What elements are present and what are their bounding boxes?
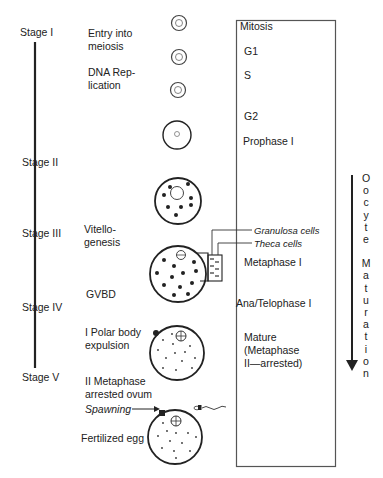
event-metaphase-ovum: II Metaphasearrested ovum (85, 375, 152, 401)
oocyte-g1 (172, 50, 187, 65)
event-polar-body: I Polar bodyexpulsion (85, 326, 141, 352)
stage-label-3: Stage III (22, 227, 61, 240)
stage-label-2: Stage II (22, 156, 58, 169)
phase-g1: G1 (244, 45, 258, 58)
phase-mature-2: (Metaphase (244, 344, 299, 357)
phase-g2: G2 (244, 110, 258, 123)
oocyte-previtellogenic (155, 178, 201, 224)
granulosa-label: Granulosa cells (254, 224, 319, 237)
oocyte-entry-meiosis (172, 16, 187, 31)
stage-label-5: Stage V (22, 371, 59, 384)
oocyte-polar-body (150, 326, 204, 380)
phase-anatelophase-1: Ana/Telophase I (236, 297, 311, 310)
theca-label: Theca cells (254, 237, 302, 250)
maturation-label: O o c y t e M a t u r a t i o n (360, 172, 372, 379)
event-dna-replication: DNA Rep-lication (88, 66, 135, 92)
event-entry-meiosis: Entry intomeiosis (88, 27, 132, 53)
sperm-icon (194, 405, 226, 410)
stage-label-1: Stage I (20, 26, 53, 39)
event-gvbd: GVBD (86, 288, 116, 301)
phase-mature-3: II—arrested) (244, 357, 302, 370)
phase-metaphase-1: Metaphase I (244, 256, 302, 269)
oocyte-vitellogenic (150, 246, 222, 302)
stage-label-4: Stage IV (22, 301, 62, 314)
phase-s: S (244, 69, 251, 82)
event-fertilized-egg: Fertilized egg (81, 432, 144, 445)
oocyte-prophase (163, 121, 191, 149)
event-vitellogenesis: Vitello-genesis (84, 223, 120, 249)
phase-prophase-1: Prophase I (243, 135, 294, 148)
fertilized-egg (148, 410, 202, 464)
phase-title: Mitosis (240, 20, 273, 33)
oocyte-dna-replication (171, 83, 186, 98)
phase-mature: Mature (244, 331, 277, 344)
spawning-label: Spawning (85, 403, 131, 416)
theca-leader-line (218, 243, 252, 255)
